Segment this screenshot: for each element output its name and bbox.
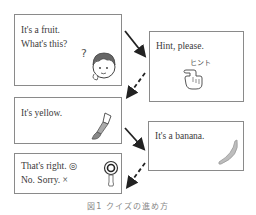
figure-caption: 図1 クイズの進め方 <box>0 200 256 211</box>
arrow-hint-request-to-hint <box>128 73 145 96</box>
arrow-hint-to-answer <box>125 128 143 148</box>
flow-arrows <box>0 0 256 215</box>
arrow-answer-to-feedback <box>128 163 145 186</box>
arrow-question-to-hint-request <box>125 31 144 55</box>
